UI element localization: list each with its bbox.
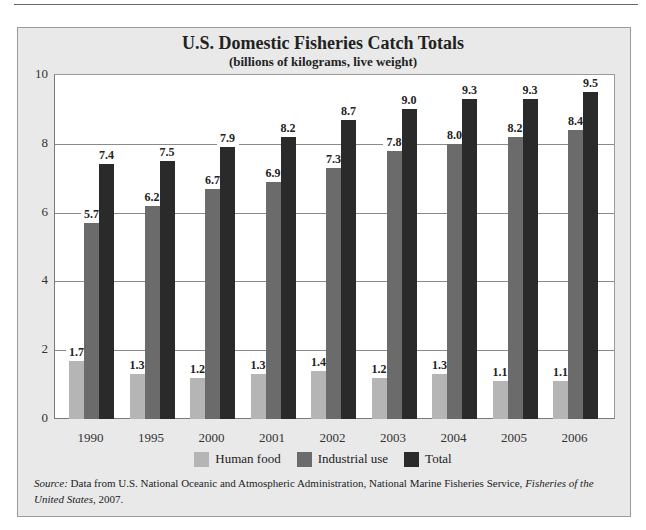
y-tick-label: 0 [18,410,48,426]
bar-total [160,161,175,419]
source-end: , 2007. [93,493,123,505]
source-note: Source: Data from U.S. National Oceanic … [34,475,619,507]
y-tick-label: 10 [18,66,48,82]
x-tick-label: 2000 [187,430,237,446]
x-tick-label: 2003 [368,430,418,446]
source-label: Source: [34,477,68,489]
legend-item: Total [404,451,452,467]
bar-human-food [432,374,447,419]
value-label: 7.5 [156,146,178,159]
bar-human-food [130,374,145,419]
bar-human-food [372,378,387,419]
value-label: 7.9 [217,132,239,145]
bar-industrial-use [387,151,402,419]
x-tick-label: 2005 [489,430,539,446]
y-tick-label: 6 [18,204,48,220]
legend-swatch-icon [194,452,209,467]
legend: Human foodIndustrial useTotal [0,451,646,471]
bar-human-food [553,381,568,419]
bar-human-food [311,371,326,419]
bar-total [281,137,296,419]
x-tick-label: 2001 [247,430,297,446]
bar-total [341,120,356,419]
y-tick-label: 8 [18,135,48,151]
legend-item: Human food [194,451,280,467]
value-label: 9.5 [580,77,602,90]
legend-swatch-icon [404,452,419,467]
legend-label: Industrial use [318,451,388,467]
bar-industrial-use [568,130,583,419]
legend-label: Total [425,451,452,467]
x-tick-label: 2006 [550,430,600,446]
value-label: 8.7 [338,105,360,118]
source-text: Data from U.S. National Oceanic and Atmo… [68,477,525,489]
legend-item: Industrial use [297,451,388,467]
bar-total [583,92,598,419]
chart-title: U.S. Domestic Fisheries Catch Totals [0,33,646,54]
legend-label: Human food [215,451,280,467]
bar-industrial-use [326,168,341,419]
chart-subtitle: (billions of kilograms, live weight) [0,54,646,70]
x-tick-label: 1990 [66,430,116,446]
x-tick-label: 2004 [429,430,479,446]
value-label: 9.3 [459,84,481,97]
bar-industrial-use [266,182,281,419]
bar-total [99,164,114,419]
bar-total [462,99,477,419]
bar-human-food [190,378,205,419]
bar-industrial-use [205,189,220,419]
top-rule [14,4,638,5]
value-label: 7.4 [96,149,118,162]
value-label: 9.3 [519,84,541,97]
y-tick-label: 2 [18,341,48,357]
x-tick-label: 1995 [126,430,176,446]
bar-industrial-use [84,223,99,419]
bar-total [402,109,417,419]
bar-total [523,99,538,419]
bar-human-food [69,361,84,419]
bar-total [220,147,235,419]
value-label: 9.0 [398,94,420,107]
bar-industrial-use [447,144,462,419]
plot-area: 1.75.77.41.36.27.51.26.77.91.36.98.21.47… [54,74,615,419]
bar-industrial-use [508,137,523,419]
y-tick-label: 4 [18,272,48,288]
x-tick-label: 2002 [308,430,358,446]
value-label: 8.2 [277,122,299,135]
bar-human-food [251,374,266,419]
bar-human-food [493,381,508,419]
bar-industrial-use [145,206,160,419]
legend-swatch-icon [297,452,312,467]
